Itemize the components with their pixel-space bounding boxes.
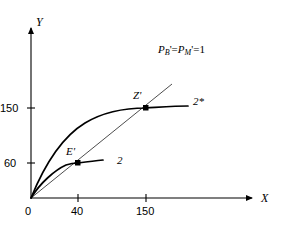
point-marker-e (75, 160, 81, 166)
price-value: 1 (199, 43, 205, 55)
curve-label-upper: 2* (193, 96, 204, 107)
curve-lower-2 (31, 160, 103, 198)
x-tick-label-150: 150 (136, 206, 154, 217)
point-label-z: Z' (133, 90, 141, 101)
price-subscript-2: M (185, 48, 192, 57)
price-subscript-1: B (165, 48, 170, 57)
price-condition-label: PB'=PM'=1 (158, 44, 205, 55)
origin-label: 0 (25, 206, 31, 217)
y-tick-label-150: 150 (0, 103, 18, 114)
x-tick-label-40: 40 (71, 206, 83, 217)
curve-upper-2-star (31, 106, 188, 198)
price-ray-line (31, 84, 172, 198)
offer-curve-figure: Y X 0 40 150 60 150 E' Z' 2 2* PB'=PM'=1 (0, 0, 284, 235)
y-axis-label: Y (36, 16, 43, 28)
plot-canvas (0, 0, 284, 235)
price-symbol-1: P (158, 43, 165, 55)
point-label-e: E' (66, 146, 75, 157)
y-tick-label-60: 60 (4, 158, 16, 169)
curve-label-lower: 2 (117, 155, 123, 166)
x-axis-label: X (261, 192, 268, 204)
price-symbol-2: P (178, 43, 185, 55)
point-marker-z (143, 105, 149, 111)
